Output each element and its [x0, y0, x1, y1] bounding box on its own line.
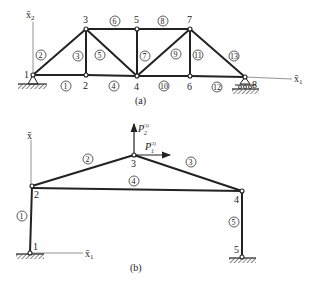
- truss-figure: x̄2 x̄1: [18, 9, 303, 107]
- svg-text:12: 12: [213, 83, 221, 92]
- frame-figure: x̄ x̄1 P2(3) P1(3): [16, 123, 256, 274]
- svg-text:3: 3: [189, 158, 193, 167]
- caption-b: (b): [130, 262, 142, 274]
- svg-text:5: 5: [234, 244, 239, 255]
- svg-text:3: 3: [76, 52, 80, 61]
- svg-text:1: 1: [33, 241, 38, 252]
- svg-text:8: 8: [252, 79, 257, 90]
- svg-text:4: 4: [234, 194, 239, 205]
- svg-text:7: 7: [187, 14, 192, 25]
- svg-text:3: 3: [131, 158, 136, 169]
- frame-node-labels: 1 2 3 4 5: [33, 158, 239, 255]
- svg-text:9: 9: [174, 50, 178, 59]
- svg-text:1: 1: [24, 69, 29, 80]
- svg-text:10: 10: [160, 82, 168, 91]
- axis-x1-label: x̄1: [294, 73, 303, 86]
- svg-text:11: 11: [194, 51, 202, 60]
- svg-text:8: 8: [161, 17, 165, 26]
- svg-text:5: 5: [232, 218, 236, 227]
- frame-members: [30, 155, 242, 257]
- svg-text:2: 2: [34, 189, 39, 200]
- axis-x2-label: x̄2: [26, 9, 35, 22]
- structural-diagram: x̄2 x̄1: [0, 0, 324, 281]
- svg-text:2: 2: [39, 51, 43, 60]
- svg-text:5: 5: [98, 51, 102, 60]
- svg-text:6: 6: [113, 17, 117, 26]
- truss-nodes: [31, 27, 247, 79]
- svg-text:2: 2: [83, 80, 88, 91]
- load-p1-label: P1(3): [144, 141, 156, 154]
- svg-text:7: 7: [143, 52, 147, 61]
- svg-text:13: 13: [230, 52, 238, 61]
- load-p2-label: P2(3): [137, 123, 149, 136]
- axis-x1-label: x̄1: [85, 248, 94, 261]
- frame-nodes: [28, 153, 244, 259]
- svg-text:2: 2: [86, 155, 90, 164]
- svg-text:4: 4: [132, 177, 136, 186]
- svg-text:1: 1: [64, 82, 68, 91]
- truss-members: [33, 29, 245, 77]
- svg-text:5: 5: [134, 14, 139, 25]
- svg-text:1: 1: [20, 212, 24, 221]
- caption-a: (a): [135, 95, 146, 107]
- svg-text:4: 4: [134, 81, 139, 92]
- svg-text:6: 6: [187, 81, 192, 92]
- axis-x-vertical-label: x̄: [27, 130, 32, 141]
- svg-text:3: 3: [83, 14, 88, 25]
- svg-text:4: 4: [112, 82, 116, 91]
